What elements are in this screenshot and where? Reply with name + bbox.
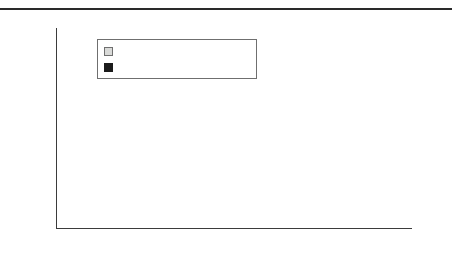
legend-swatch-bio-fuels	[104, 47, 113, 56]
legend	[97, 39, 257, 79]
chart-figure	[0, 0, 452, 279]
y-axis-line	[56, 28, 57, 229]
x-axis-line	[56, 228, 412, 229]
legend-swatch-renewable-electricity	[104, 63, 113, 72]
top-divider-rule	[0, 8, 452, 10]
legend-item-renewable-electricity	[104, 59, 118, 75]
legend-item-bio-fuels	[104, 43, 118, 59]
